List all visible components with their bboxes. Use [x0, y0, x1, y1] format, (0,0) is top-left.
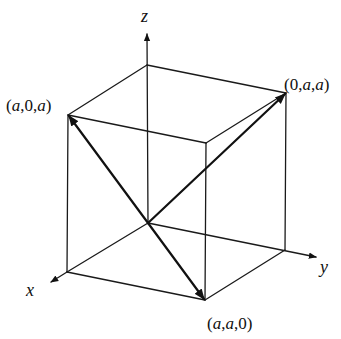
edge-top-ef: [206, 93, 286, 143]
y-axis-label: y: [318, 257, 328, 277]
edge-bottom-oa-hidden: [67, 223, 148, 272]
x-axis-label: x: [25, 280, 34, 300]
axes: [51, 34, 316, 282]
vectors: [69, 94, 285, 299]
vector-to-a0a: [69, 116, 148, 223]
cube-edges: [67, 65, 286, 300]
point-label-aa0: (a,a,0): [207, 314, 252, 333]
edge-top-zf: [147, 65, 286, 93]
vector-to-0aa: [148, 94, 285, 223]
y-axis: [148, 223, 316, 257]
edge-vertical-b: [285, 93, 286, 250]
cube-vector-diagram: z y x (a,0,a) (0,a,a) (a,a,0): [0, 0, 341, 339]
edge-top-zd: [68, 65, 147, 115]
z-axis-label: z: [140, 6, 148, 26]
edge-bottom-cb: [205, 250, 285, 300]
z-axis: [147, 34, 148, 223]
point-label-a0a: (a,0,a): [6, 96, 51, 115]
point-label-0aa: (0,a,a): [284, 75, 329, 94]
x-axis-tip: [51, 272, 67, 282]
vector-to-aa0: [148, 223, 204, 299]
edge-vertical-c: [205, 143, 206, 300]
edge-bottom-oc: [67, 272, 205, 300]
edge-top-de: [68, 115, 206, 143]
edge-vertical-a: [67, 115, 68, 272]
